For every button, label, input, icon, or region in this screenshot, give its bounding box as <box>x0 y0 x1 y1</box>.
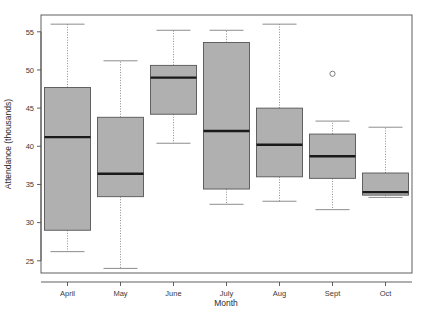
box-rect <box>204 42 250 189</box>
x-tick-label: May <box>113 289 127 298</box>
x-axis-title: Month <box>214 298 238 308</box>
box-rect <box>45 88 91 231</box>
x-tick-label: July <box>220 289 234 298</box>
y-tick-label: 40 <box>26 142 34 151</box>
outlier-point <box>330 71 335 76</box>
x-tick-label: April <box>60 289 75 298</box>
x-tick-label: June <box>165 289 181 298</box>
box-rect <box>151 65 197 114</box>
y-tick-label: 55 <box>26 28 34 37</box>
y-axis-title: Attendance (thousands) <box>3 99 13 189</box>
boxplot-svg: 25303540455055AprilMayJuneJulyAugSeptOct… <box>0 0 421 312</box>
x-tick-label: Sept <box>325 289 341 298</box>
x-tick-label: Oct <box>380 289 393 298</box>
x-tick-label: Aug <box>273 289 286 298</box>
y-tick-label: 30 <box>26 218 34 227</box>
box-rect <box>257 108 303 177</box>
boxplot-figure: 25303540455055AprilMayJuneJulyAugSeptOct… <box>0 0 421 312</box>
y-tick-label: 35 <box>26 180 34 189</box>
y-tick-label: 45 <box>26 104 34 113</box>
box-rect <box>98 117 144 196</box>
y-tick-label: 50 <box>26 66 34 75</box>
y-tick-label: 25 <box>26 257 34 266</box>
